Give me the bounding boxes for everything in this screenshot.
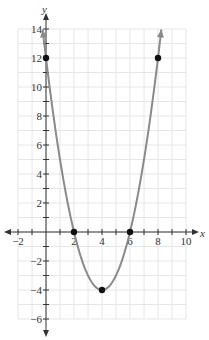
y-axis-label: y	[41, 3, 47, 15]
y-tick-label: −2	[30, 255, 42, 267]
y-tick-label: 2	[37, 197, 43, 209]
x-axis-right-arrow-icon	[192, 229, 199, 235]
y-tick-label: 4	[37, 168, 43, 180]
data-point	[127, 229, 133, 235]
y-tick-label: 14	[31, 23, 43, 35]
x-axis-label: x	[199, 227, 205, 239]
y-tick-label: 12	[31, 52, 42, 64]
y-tick-label: −6	[30, 313, 42, 325]
y-tick-label: 10	[31, 81, 43, 93]
x-tick-label: 4	[99, 235, 105, 247]
x-tick-label: 8	[155, 235, 161, 247]
x-tick-label: 10	[181, 235, 193, 247]
data-point	[43, 55, 49, 61]
parabola-chart: −2246810−6−4−22468101214 x y	[0, 0, 209, 340]
x-tick-label: −2	[12, 235, 24, 247]
data-point	[155, 55, 161, 61]
y-tick-label: 6	[37, 139, 43, 151]
y-axis-down-arrow-icon	[43, 330, 49, 337]
data-point	[99, 287, 105, 293]
x-axis-left-arrow-icon	[4, 229, 11, 235]
data-point	[71, 229, 77, 235]
y-tick-label: −4	[30, 284, 42, 296]
y-tick-label: 8	[37, 110, 43, 122]
